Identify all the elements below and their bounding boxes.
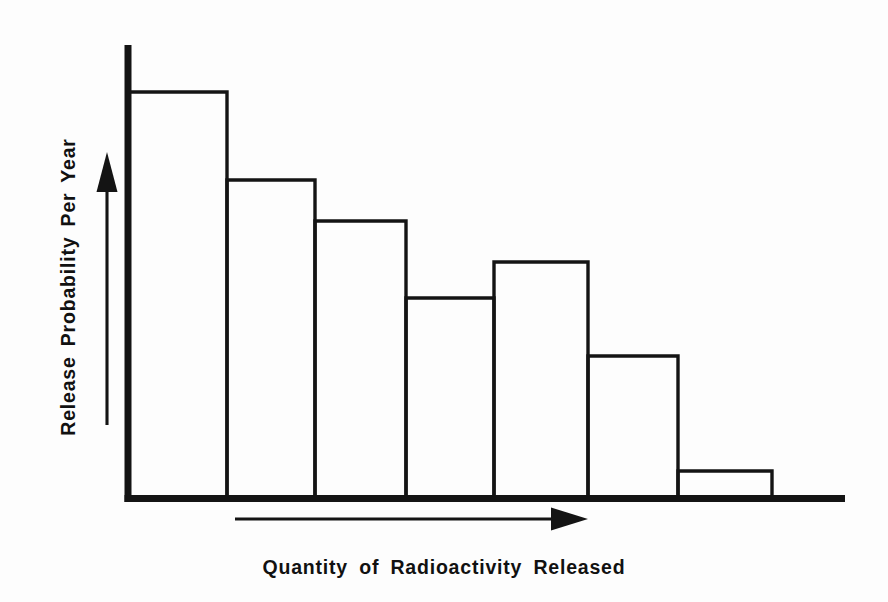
- bar-series: [128, 92, 772, 497]
- increasing-quantity-arrow-icon: [235, 508, 588, 531]
- bar-3: [315, 221, 406, 497]
- increasing-probability-arrow-icon: [97, 152, 118, 425]
- axis-frame: [125, 45, 846, 502]
- y-arrow-head: [97, 152, 118, 192]
- bar-6: [588, 356, 678, 497]
- x-axis-title: Quantity of Radioactivity Released: [0, 556, 888, 579]
- figure-root: Release Probability Per Year Quantity of…: [0, 0, 888, 602]
- bar-1: [128, 92, 227, 497]
- bar-chart-plot: [0, 0, 888, 602]
- x-axis-baseline: [125, 495, 846, 502]
- x-arrow-head: [551, 508, 588, 531]
- bar-5: [494, 262, 588, 497]
- bar-7: [678, 471, 772, 497]
- bar-4: [406, 298, 494, 497]
- bar-2: [227, 180, 315, 497]
